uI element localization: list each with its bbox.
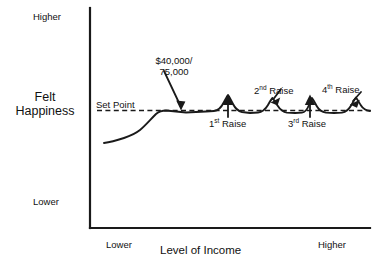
raise-4-label: 4th Raise bbox=[322, 84, 360, 95]
raise-1-word: Raise bbox=[219, 118, 246, 129]
y-axis-top-label: Higher bbox=[33, 11, 61, 22]
income-threshold-label: $40,000/ 75,000 bbox=[141, 55, 207, 77]
set-point-label: Set Point bbox=[96, 99, 135, 110]
y-axis-title: Felt Happiness bbox=[8, 90, 82, 118]
raise-2-ordinal-suffix: nd bbox=[259, 84, 266, 91]
raise-3-arrow bbox=[305, 95, 315, 118]
raise-3-word: Raise bbox=[299, 118, 326, 129]
y-axis-title-line2: Happiness bbox=[8, 104, 82, 118]
raise-2-label: 2nd Raise bbox=[254, 85, 293, 96]
y-axis-title-line1: Felt bbox=[8, 90, 82, 104]
raise-4-word: Raise bbox=[333, 84, 360, 95]
y-axis-bottom-label: Lower bbox=[33, 196, 59, 207]
x-axis-title: Level of Income bbox=[160, 245, 241, 256]
chart-canvas bbox=[0, 0, 377, 266]
x-axis-right-label: Higher bbox=[318, 239, 346, 250]
raise-1-label: 1st Raise bbox=[209, 118, 246, 129]
raise-3-label: 3rd Raise bbox=[288, 118, 326, 129]
raise-1-arrow bbox=[223, 95, 233, 118]
happiness-income-chart: Higher Lower Felt Happiness Lower Higher… bbox=[0, 0, 377, 266]
x-axis-left-label: Lower bbox=[106, 239, 132, 250]
income-threshold-line1: $40,000/ bbox=[141, 55, 207, 66]
income-threshold-line2: 75,000 bbox=[141, 66, 207, 77]
raise-2-word: Raise bbox=[267, 85, 294, 96]
